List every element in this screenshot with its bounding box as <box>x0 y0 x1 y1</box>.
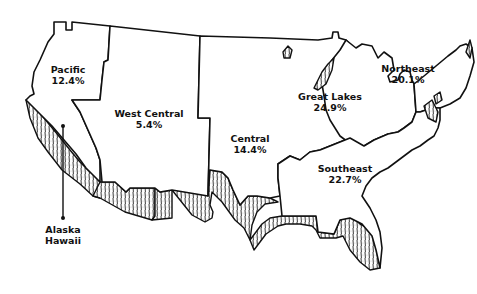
label-pacific: Pacific 12.4% <box>51 64 86 86</box>
leader-dot-top <box>61 124 65 128</box>
callout-line1: Alaska <box>45 224 81 235</box>
leader-dot-bottom <box>61 216 65 220</box>
region-value: 24.9% <box>298 102 362 113</box>
label-west-central: West Central 5.4% <box>114 108 183 130</box>
region-name: West Central <box>114 108 183 119</box>
region-name: Great Lakes <box>298 91 362 102</box>
label-northeast: Northeast 20.1% <box>381 63 435 85</box>
region-value: 20.1% <box>381 74 435 85</box>
label-central: Central 14.4% <box>230 133 269 155</box>
region-name: Central <box>230 133 269 144</box>
callout-line2: Hawaii <box>45 235 81 246</box>
label-alaska-hawaii: Alaska Hawaii <box>45 224 81 246</box>
region-value: 14.4% <box>230 144 269 155</box>
region-name: Southeast <box>318 163 373 174</box>
label-southeast: Southeast 22.7% <box>318 163 373 185</box>
region-value: 5.4% <box>114 119 183 130</box>
coastal-band-texas <box>152 188 172 220</box>
region-value: 12.4% <box>51 75 86 86</box>
label-great-lakes: Great Lakes 24.9% <box>298 91 362 113</box>
region-name: Pacific <box>51 64 86 75</box>
region-name: Northeast <box>381 63 435 74</box>
region-value: 22.7% <box>318 174 373 185</box>
